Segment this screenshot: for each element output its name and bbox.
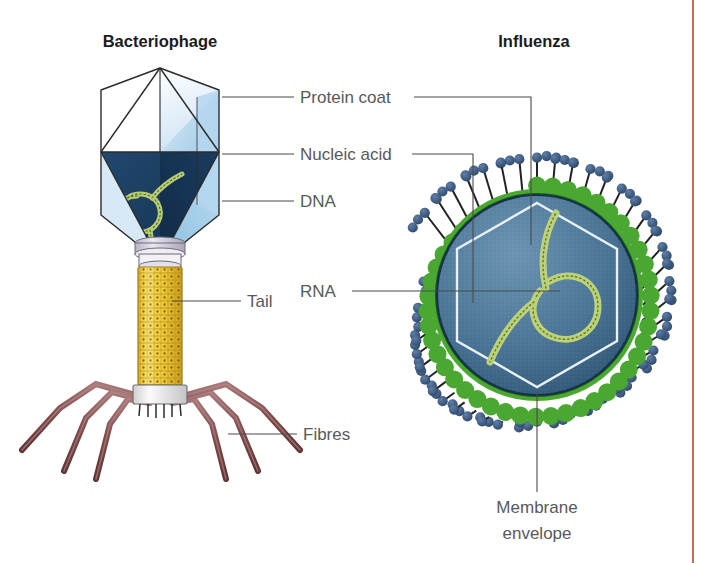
tail-sheath-highlight (145, 267, 154, 385)
tail-sheath-weave (138, 267, 182, 385)
capsid-head (101, 68, 219, 262)
phage-collar (135, 237, 185, 271)
label-tail: Tail (247, 292, 273, 311)
spike (461, 171, 480, 211)
fibre-left-inner (96, 399, 150, 479)
label-dna: DNA (300, 192, 337, 211)
baseplate-pin (180, 404, 181, 416)
label-membrane-envelope-line2: envelope (502, 524, 571, 543)
influenza-illustration (408, 151, 677, 433)
panel-title-influenza: Influenza (498, 32, 570, 50)
bacteriophage-illustration (22, 68, 300, 479)
baseplate-pin (139, 404, 140, 416)
label-membrane-envelope-line1: Membrane (496, 498, 577, 517)
label-protein-coat: Protein coat (300, 88, 391, 107)
phage-baseplate (133, 385, 187, 418)
spike (408, 208, 448, 243)
baseplate-pins (139, 404, 181, 418)
diagram-canvas: Bacteriophage Influenza Protein coat Nuc… (0, 0, 709, 563)
baseplate-body (133, 385, 187, 404)
label-fibres: Fibres (303, 425, 350, 444)
phage-tail (138, 267, 182, 385)
panel-title-bacteriophage: Bacteriophage (103, 32, 218, 50)
label-rna: RNA (300, 282, 337, 301)
spike (432, 194, 458, 231)
virus-comparison-figure: Bacteriophage Influenza Protein coat Nuc… (0, 0, 709, 563)
label-nucleic-acid: Nucleic acid (300, 145, 392, 164)
spike (460, 163, 494, 204)
